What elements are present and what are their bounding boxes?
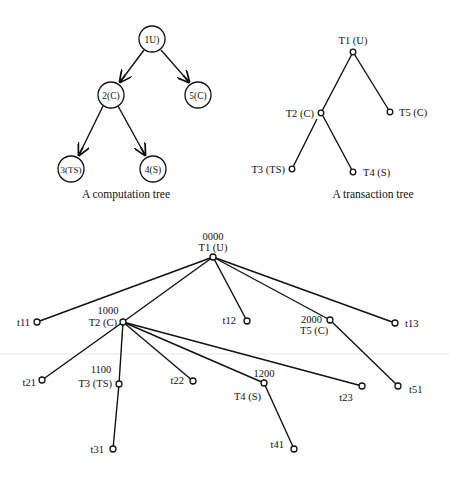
node-dot bbox=[387, 109, 393, 115]
etree-node-t22: t22 bbox=[171, 375, 196, 386]
etree-node-t21: t21 bbox=[23, 377, 45, 388]
diagram-canvas: 1U) 2(C) 5(C) 3(TS) 4(S) A computation t… bbox=[0, 0, 450, 485]
etree-node-t12: t12 bbox=[223, 315, 250, 326]
etree-edge-T1-t11 bbox=[37, 257, 213, 322]
node-label: T3 (TS) bbox=[78, 378, 112, 390]
node-dot bbox=[110, 446, 116, 452]
node-label: T1 (U) bbox=[199, 242, 228, 254]
ctree-edge-1-5 bbox=[161, 50, 189, 82]
node-code: 0000 bbox=[203, 231, 224, 242]
node-dot bbox=[244, 318, 250, 324]
ctree-node-5: 5(C) bbox=[185, 82, 211, 108]
ttree-node-T2: T2 (C) bbox=[286, 108, 324, 120]
ttree-edge-T2-T4 bbox=[323, 116, 353, 172]
node-label: 4(S) bbox=[145, 165, 161, 176]
node-code: 1000 bbox=[98, 305, 119, 316]
etree-node-t13: t13 bbox=[392, 318, 418, 329]
etree-edge-T1-T2 bbox=[123, 257, 213, 322]
etree-node-T3: 1100 T3 (TS) bbox=[78, 364, 122, 390]
node-dot bbox=[318, 110, 324, 116]
node-label: 5(C) bbox=[189, 91, 206, 102]
ttree-node-T4: T4 (S) bbox=[350, 167, 390, 179]
node-dot bbox=[34, 319, 40, 325]
etree-node-T1: 0000 T1 (U) bbox=[199, 231, 228, 260]
node-label: t21 bbox=[23, 377, 36, 388]
node-label: t51 bbox=[409, 384, 422, 395]
ttree-edge-T2-T3 bbox=[292, 119, 317, 169]
etree-edge-T5-t51 bbox=[330, 320, 398, 386]
ctree-node-3: 3(TS) bbox=[58, 156, 84, 182]
extended-tree-edges bbox=[37, 257, 398, 449]
node-label: T4 (S) bbox=[363, 167, 391, 179]
node-label: t22 bbox=[171, 375, 184, 386]
node-dot bbox=[395, 383, 401, 389]
node-code: 1100 bbox=[91, 364, 112, 375]
computation-tree-edges bbox=[79, 50, 189, 155]
node-code: 1200 bbox=[254, 368, 275, 379]
node-label: T2 (C) bbox=[286, 108, 315, 120]
ttree-node-T5: T5 (C) bbox=[387, 107, 428, 119]
node-dot bbox=[327, 317, 333, 323]
node-dot bbox=[350, 169, 356, 175]
node-label: T3 (TS) bbox=[251, 164, 285, 176]
node-dot bbox=[116, 381, 122, 387]
ctree-edge-2-3 bbox=[79, 106, 103, 155]
node-dot bbox=[261, 380, 267, 386]
node-label: T4 (S) bbox=[234, 391, 262, 403]
node-dot bbox=[291, 446, 297, 452]
node-dot bbox=[39, 377, 45, 383]
etree-edge-T1-T5 bbox=[213, 257, 330, 320]
extended-tree: 0000 T1 (U) t11 1000 T2 (C) t12 2000 T5 … bbox=[17, 231, 422, 455]
etree-node-t31: t31 bbox=[91, 444, 116, 455]
node-dot bbox=[210, 254, 216, 260]
node-dot bbox=[289, 166, 295, 172]
node-code: 2000 bbox=[301, 314, 322, 325]
node-label: t12 bbox=[223, 315, 236, 326]
node-label: t31 bbox=[91, 444, 104, 455]
etree-edge-T3-t31 bbox=[113, 384, 119, 449]
transaction-tree-caption: A transaction tree bbox=[332, 188, 413, 200]
node-label: T5 (C) bbox=[399, 107, 428, 119]
node-label: 1U) bbox=[145, 35, 160, 46]
computation-tree-caption: A computation tree bbox=[82, 188, 170, 201]
node-label: t41 bbox=[271, 439, 284, 450]
etree-node-t23: t23 bbox=[339, 383, 365, 403]
transaction-tree: T1 (U) T2 (C) T5 (C) T3 (TS) T4 (S) A tr… bbox=[251, 35, 427, 200]
ttree-edge-T1-T5 bbox=[353, 52, 390, 112]
etree-node-T2: 1000 T2 (C) bbox=[89, 305, 126, 329]
ctree-edge-2-4 bbox=[118, 106, 145, 155]
etree-node-t11: t11 bbox=[17, 317, 40, 328]
ttree-node-T3: T3 (TS) bbox=[251, 164, 294, 176]
node-label: t11 bbox=[17, 317, 30, 328]
ctree-node-1: 1U) bbox=[139, 26, 165, 52]
node-dot bbox=[120, 319, 126, 325]
node-dot bbox=[359, 383, 365, 389]
ctree-node-4: 4(S) bbox=[140, 156, 166, 182]
node-label: t13 bbox=[405, 318, 418, 329]
ctree-node-2: 2(C) bbox=[98, 82, 124, 108]
ttree-node-T1: T1 (U) bbox=[339, 35, 368, 55]
node-dot bbox=[392, 320, 398, 326]
ctree-edge-1-2 bbox=[120, 50, 144, 82]
node-label: T2 (C) bbox=[89, 317, 118, 329]
node-label: T1 (U) bbox=[339, 35, 368, 47]
node-label: 3(TS) bbox=[61, 165, 82, 175]
ttree-edge-T1-T2 bbox=[321, 52, 353, 113]
etree-edge-T2-T3 bbox=[119, 322, 123, 384]
node-label: t23 bbox=[339, 392, 352, 403]
etree-node-t41: t41 bbox=[271, 439, 297, 452]
node-label: T5 (C) bbox=[300, 325, 329, 337]
etree-edge-T2-T4 bbox=[123, 322, 264, 383]
node-dot bbox=[190, 378, 196, 384]
node-label: 2(C) bbox=[102, 91, 119, 102]
node-dot bbox=[350, 49, 356, 55]
computation-tree: 1U) 2(C) 5(C) 3(TS) 4(S) A computation t… bbox=[58, 26, 211, 201]
etree-node-T5: 2000 T5 (C) bbox=[300, 314, 333, 337]
etree-node-t51: t51 bbox=[395, 383, 422, 395]
